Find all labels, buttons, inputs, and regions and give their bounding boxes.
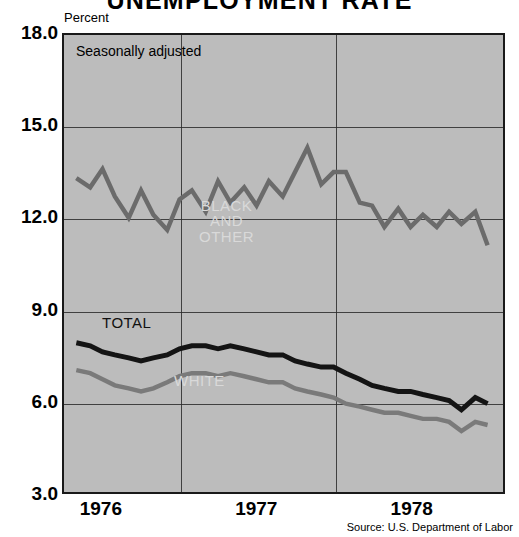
series-line-black-and-other [76,148,487,245]
y-tick-label: 3.0 [2,483,58,505]
y-tick-label: 18.0 [2,22,58,44]
series-line-white [76,370,487,431]
x-tick-label: 1976 [80,498,122,520]
plot-inner: Seasonally adjusted BLACK AND OTHERTOTAL… [64,35,503,492]
source-note: Source: U.S. Department of Labor [347,521,513,533]
x-tick-label: 1977 [235,498,277,520]
series-label-black-and-other: BLACK AND OTHER [199,198,254,244]
y-tick-label: 12.0 [2,206,58,228]
series-lines [64,35,503,492]
x-tick-label: 1978 [391,498,433,520]
plot-area: Seasonally adjusted BLACK AND OTHERTOTAL… [62,33,505,494]
y-tick-label: 15.0 [2,114,58,136]
chart-page: UNEMPLOYMENT RATE Percent 18.015.012.09.… [0,0,519,537]
y-axis-tick-labels: 18.015.012.09.06.03.0 [0,33,58,494]
series-label-total: TOTAL [102,315,151,330]
y-tick-label: 9.0 [2,299,58,321]
y-axis-unit-label: Percent [64,10,109,25]
series-line-total [76,343,487,410]
y-tick-label: 6.0 [2,391,58,413]
series-label-white: WHITE [174,373,225,388]
seasonally-adjusted-note: Seasonally adjusted [76,43,201,59]
